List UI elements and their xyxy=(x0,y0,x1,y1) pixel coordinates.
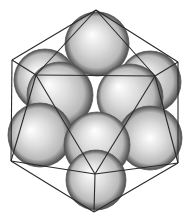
sphere-bottom xyxy=(66,150,126,210)
fcc-unit-cell-drawing xyxy=(0,0,190,223)
sphere-middle-left xyxy=(8,103,72,167)
fcc-unit-cell-figure xyxy=(0,0,190,223)
